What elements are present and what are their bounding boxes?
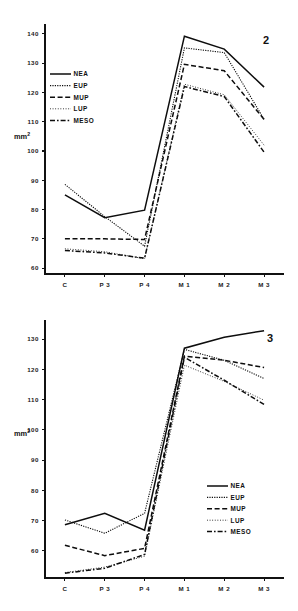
series-line-eup: [65, 48, 264, 246]
y-tick-label: 100: [27, 147, 39, 154]
y-axis-label: mm2: [14, 131, 30, 141]
y-tick-label: 130: [27, 335, 39, 342]
legend-label-eup: EUP: [231, 494, 246, 501]
y-tick-label: 90: [31, 456, 39, 463]
panel-number: 3: [267, 332, 273, 344]
y-tick-label: 140: [27, 30, 39, 37]
chart-legend: NEAEUPMUPLUPMESO: [207, 482, 251, 535]
panel-number: 2: [263, 34, 269, 46]
chart-panel-3: 60708090100110120130CP 3P 4M 1M 2M 3mm23…: [0, 300, 298, 600]
x-tick-label: M 3: [258, 585, 270, 592]
y-tick-label: 60: [31, 547, 39, 554]
y-tick-label: 70: [31, 235, 39, 242]
y-tick-label: 80: [31, 206, 39, 213]
legend-label-meso: MESO: [74, 117, 94, 124]
y-tick-label: 130: [27, 59, 39, 66]
x-tick-label: M 2: [218, 281, 230, 288]
y-axis-label-exponent: 2: [27, 131, 30, 137]
y-tick-label: 90: [31, 177, 39, 184]
line-chart-3: 60708090100110120130CP 3P 4M 1M 2M 3mm23…: [0, 300, 298, 600]
x-tick-label: P 3: [99, 281, 110, 288]
y-tick-label: 110: [28, 118, 40, 125]
legend-label-lup: LUP: [74, 105, 88, 112]
line-chart-2: 60708090100110120130140CP 3P 4M 1M 2M 3m…: [0, 0, 298, 300]
y-tick-label: 70: [31, 517, 39, 524]
y-tick-label: 60: [31, 264, 39, 271]
legend-label-mup: MUP: [231, 505, 247, 512]
legend-label-mup: MUP: [74, 94, 90, 101]
series-line-lup: [65, 365, 264, 572]
legend-label-nea: NEA: [231, 482, 246, 489]
chart-panel-2: 60708090100110120130140CP 3P 4M 1M 2M 3m…: [0, 0, 298, 300]
series-line-nea: [65, 36, 264, 218]
series-line-meso: [65, 357, 264, 573]
x-tick-label: P 4: [139, 585, 150, 592]
legend-label-eup: EUP: [74, 82, 89, 89]
y-tick-label: 80: [31, 487, 39, 494]
y-axis-label: mm2: [14, 428, 30, 438]
y-tick-label: 110: [28, 396, 40, 403]
x-tick-label: P 3: [99, 585, 110, 592]
legend-label-nea: NEA: [74, 70, 89, 77]
y-tick-label: 120: [27, 89, 39, 96]
x-tick-label: C: [62, 585, 67, 592]
x-tick-label: M 3: [258, 281, 270, 288]
series-line-mup: [65, 64, 264, 239]
chart-legend: NEAEUPMUPLUPMESO: [50, 70, 94, 123]
legend-label-lup: LUP: [231, 517, 245, 524]
figure-page: 60708090100110120130140CP 3P 4M 1M 2M 3m…: [0, 0, 298, 611]
legend-label-meso: MESO: [231, 528, 251, 535]
x-tick-label: C: [62, 281, 67, 288]
y-tick-label: 120: [27, 366, 39, 373]
x-tick-label: M 1: [179, 585, 191, 592]
x-tick-label: M 2: [218, 585, 230, 592]
x-tick-label: M 1: [179, 281, 191, 288]
x-tick-label: P 4: [139, 281, 150, 288]
y-axis-label-exponent: 2: [27, 428, 30, 434]
